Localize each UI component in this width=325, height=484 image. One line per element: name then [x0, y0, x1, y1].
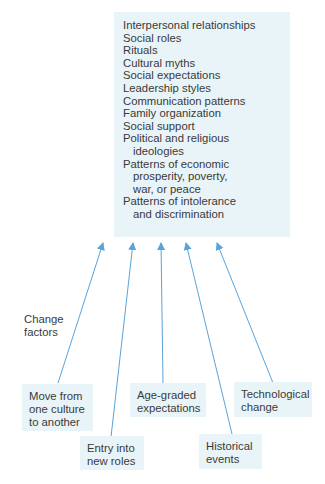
cultural-outcomes-box: Interpersonal relationships Social roles…: [114, 12, 290, 237]
outcome-item: Leadership styles: [123, 82, 284, 95]
arrow-technological: [217, 243, 273, 383]
outcome-item: Social expectations: [123, 69, 284, 82]
outcome-item: Social roles: [123, 32, 284, 45]
factor-technological: Technological change: [234, 382, 312, 417]
change-factors-label: Change factors: [24, 313, 64, 339]
outcome-item: Rituals: [123, 44, 284, 57]
arrow-move-culture: [58, 243, 103, 383]
factor-age-graded: Age-graded expectations: [130, 383, 206, 417]
outcome-item: Social support: [123, 120, 284, 133]
outcome-item: Family organization: [123, 107, 284, 120]
factor-move-culture: Move from one culture to another: [22, 384, 93, 431]
outcome-item: Communication patterns: [123, 95, 284, 108]
outcome-item: Patterns of economic prosperity, poverty…: [123, 158, 284, 196]
outcome-item: Political and religious ideologies: [123, 132, 284, 157]
factor-historical: Historical events: [199, 434, 262, 469]
factor-new-roles: Entry into new roles: [80, 436, 144, 470]
arrow-age-graded: [161, 243, 163, 383]
outcome-item: Patterns of intolerance and discriminati…: [123, 195, 284, 220]
outcome-item: Cultural myths: [123, 57, 284, 70]
outcome-item: Interpersonal relationships: [123, 19, 284, 32]
